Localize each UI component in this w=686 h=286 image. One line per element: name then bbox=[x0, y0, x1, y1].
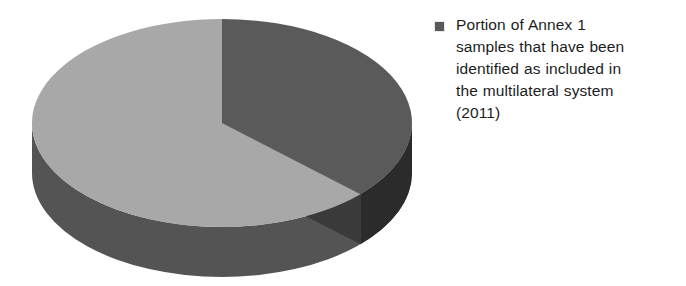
legend-label-line: (2011) bbox=[456, 102, 674, 124]
chart-legend: Portion of Annex 1 samples that have bee… bbox=[434, 14, 682, 124]
pie-chart-graphic bbox=[0, 0, 430, 286]
legend-item-label: Portion of Annex 1 samples that have bee… bbox=[456, 14, 674, 124]
pie-chart-plot-area bbox=[0, 0, 430, 286]
legend-swatch-square-icon bbox=[434, 21, 445, 32]
legend-label-line: identified as included in bbox=[456, 58, 674, 80]
legend-label-line: the multilateral system bbox=[456, 80, 674, 102]
legend-label-line: samples that have been bbox=[456, 36, 674, 58]
legend-label-line: Portion of Annex 1 bbox=[456, 14, 674, 36]
pie-top-faces bbox=[32, 19, 412, 227]
pie-chart-figure: Portion of Annex 1 samples that have bee… bbox=[0, 0, 686, 286]
